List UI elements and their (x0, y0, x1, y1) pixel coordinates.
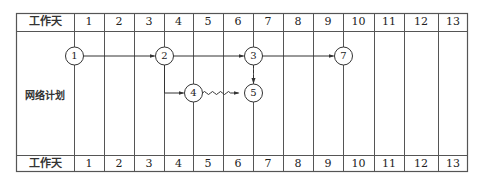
edges (84, 56, 334, 95)
footer-day-5: 5 (193, 154, 223, 174)
row-label-network-plan: 网络计划 (16, 87, 74, 102)
footer-day-1: 1 (74, 154, 104, 174)
node-1-label: 1 (66, 47, 84, 65)
header-day-10: 10 (343, 12, 374, 32)
header-day-8: 8 (283, 12, 313, 32)
footer-day-9: 9 (313, 154, 343, 174)
footer-day-11: 11 (374, 154, 404, 174)
node-2-label: 2 (156, 47, 174, 65)
footer-day-3: 3 (134, 154, 164, 174)
header-day-11: 11 (374, 12, 404, 32)
footer-label: 工作天 (16, 154, 74, 174)
footer-day-6: 6 (223, 154, 253, 174)
header-day-5: 5 (193, 12, 223, 32)
table-border (17, 14, 468, 172)
node-5-label: 5 (245, 84, 263, 102)
footer-day-13: 13 (438, 154, 468, 174)
footer-day-7: 7 (253, 154, 283, 174)
node-7-label: 7 (335, 47, 353, 65)
header-day-2: 2 (104, 12, 134, 32)
network-plan-diagram: 工作天 1 2 3 4 5 6 7 8 9 10 11 12 13 网络计划 1… (0, 0, 482, 184)
footer-day-12: 12 (404, 154, 438, 174)
edge-2-4 (165, 65, 184, 93)
header-day-1: 1 (74, 12, 104, 32)
edge-4-5-wavy (203, 92, 239, 95)
node-4-label: 4 (185, 84, 203, 102)
header-day-13: 13 (438, 12, 468, 32)
header-day-12: 12 (404, 12, 438, 32)
header-day-4: 4 (164, 12, 193, 32)
footer-day-2: 2 (104, 154, 134, 174)
footer-day-4: 4 (164, 154, 193, 174)
header-day-3: 3 (134, 12, 164, 32)
footer-day-10: 10 (343, 154, 374, 174)
node-circles (66, 47, 353, 102)
header-label: 工作天 (16, 12, 74, 32)
footer-day-8: 8 (283, 154, 313, 174)
header-day-9: 9 (313, 12, 343, 32)
header-day-7: 7 (253, 12, 283, 32)
node-3-label: 3 (245, 47, 263, 65)
header-day-6: 6 (223, 12, 253, 32)
